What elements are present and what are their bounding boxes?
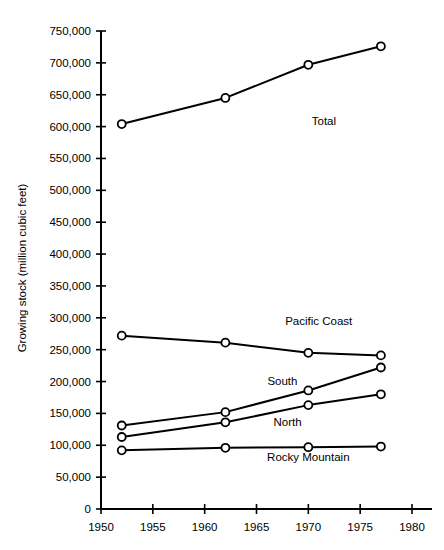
x-tick-label: 1980: [399, 521, 425, 533]
data-point-north: [221, 418, 229, 426]
x-tick-label: 1950: [88, 521, 114, 533]
series-label-north: North: [274, 416, 302, 428]
data-point-south: [304, 386, 312, 394]
chart-container: 050,000100,000150,000200,000250,000300,0…: [0, 0, 444, 550]
y-tick-label: 150,000: [49, 407, 91, 419]
data-point-rocky-mountain: [221, 444, 229, 452]
y-tick-label: 350,000: [49, 280, 91, 292]
y-tick-label: 750,000: [49, 25, 91, 37]
y-tick-label: 250,000: [49, 344, 91, 356]
x-tick-label: 1975: [347, 521, 373, 533]
line-chart: 050,000100,000150,000200,000250,000300,0…: [0, 0, 444, 550]
data-point-pacific-coast: [304, 349, 312, 357]
y-axis: 050,000100,000150,000200,000250,000300,0…: [49, 25, 106, 515]
y-tick-label: 100,000: [49, 439, 91, 451]
x-tick-label: 1965: [244, 521, 270, 533]
data-point-total: [221, 94, 229, 102]
series-label-total: Total: [312, 115, 336, 127]
y-tick-label: 450,000: [49, 216, 91, 228]
series-label-rocky-mountain: Rocky Mountain: [267, 451, 349, 463]
data-point-rocky-mountain: [118, 446, 126, 454]
x-tick-label: 1970: [296, 521, 322, 533]
y-axis-title: Growing stock (million cubic feet): [16, 183, 28, 352]
series-line-total: [122, 46, 381, 124]
data-point-total: [118, 120, 126, 128]
x-tick-label: 1955: [140, 521, 166, 533]
y-tick-label: 600,000: [49, 121, 91, 133]
y-tick-label: 550,000: [49, 152, 91, 164]
data-point-pacific-coast: [118, 332, 126, 340]
series-line-north: [122, 394, 381, 437]
data-point-rocky-mountain: [377, 443, 385, 451]
y-tick-label: 650,000: [49, 89, 91, 101]
x-tick-label: 1960: [192, 521, 218, 533]
data-point-north: [118, 433, 126, 441]
y-tick-label: 400,000: [49, 248, 91, 260]
y-tick-label: 50,000: [56, 471, 91, 483]
data-point-north: [304, 401, 312, 409]
series-label-south: South: [267, 375, 297, 387]
y-tick-label: 300,000: [49, 312, 91, 324]
series-layer: [118, 42, 385, 454]
x-axis: 1950195519601965197019751980: [88, 504, 432, 533]
data-point-total: [304, 61, 312, 69]
y-tick-label: 700,000: [49, 57, 91, 69]
y-tick-label: 0: [85, 503, 91, 515]
data-point-south: [377, 364, 385, 372]
data-point-north: [377, 390, 385, 398]
y-tick-label: 500,000: [49, 184, 91, 196]
data-point-pacific-coast: [377, 351, 385, 359]
data-point-total: [377, 42, 385, 50]
data-point-south: [118, 422, 126, 430]
series-line-pacific-coast: [122, 336, 381, 356]
y-tick-label: 200,000: [49, 376, 91, 388]
data-point-pacific-coast: [221, 339, 229, 347]
data-point-south: [221, 408, 229, 416]
series-label-pacific-coast: Pacific Coast: [285, 315, 353, 327]
